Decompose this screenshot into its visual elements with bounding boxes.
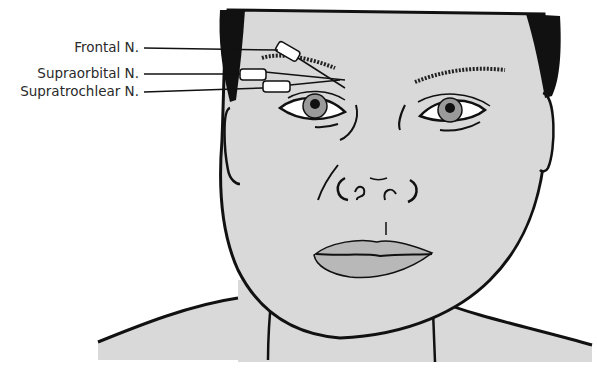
label-supraorbital-nerve: Supraorbital N. bbox=[37, 65, 139, 81]
shoulders bbox=[98, 298, 252, 360]
face-illustration bbox=[0, 0, 597, 372]
label-frontal-nerve: Frontal N. bbox=[74, 39, 139, 55]
face-shape bbox=[221, 10, 548, 338]
nerve-block-diagram: Frontal N. Supraorbital N. Supratrochlea… bbox=[0, 0, 597, 372]
label-supratrochlear-nerve: Supratrochlear N. bbox=[20, 83, 139, 99]
